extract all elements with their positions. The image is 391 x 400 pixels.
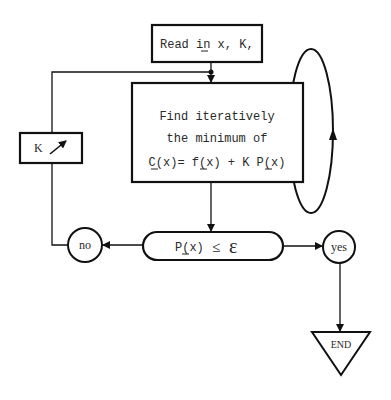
adjust-k-node: K — [20, 133, 82, 163]
process-line-1: Find iteratively — [159, 110, 274, 124]
no-node: no — [68, 228, 102, 262]
decision-lhs: P(x) — [175, 241, 204, 255]
edge-no-adjust — [52, 163, 68, 245]
end-node: END — [312, 332, 370, 375]
end-label: END — [331, 339, 352, 350]
input-node: Read in x, K, — [152, 25, 262, 62]
yes-label: yes — [331, 240, 347, 254]
yes-node: yes — [323, 231, 355, 263]
process-node: Find iteratively the minimum of C(x)= f(… — [132, 83, 303, 182]
decision-node: P(x) ≤ ε — [143, 232, 283, 260]
decision-rhs: ε — [229, 235, 237, 257]
process-line-3: C(x)= f(x) + K P(x) — [149, 156, 286, 170]
input-label: Read in x, K, — [160, 38, 254, 52]
process-line-2: the minimum of — [167, 132, 268, 146]
no-label: no — [79, 238, 91, 252]
decision-op: ≤ — [212, 239, 220, 255]
loop-arrow-icon — [329, 128, 337, 140]
flowchart-canvas: Read in x, K, Find iteratively the minim… — [0, 0, 391, 400]
adjust-k-label: K — [34, 141, 43, 155]
